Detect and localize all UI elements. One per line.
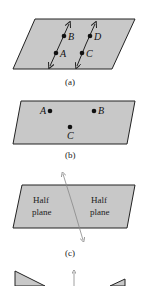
geometry-figure: B A D C (a) A B C (b) Half plane Half pl… [0, 0, 145, 286]
panel-b: A B C (b) [13, 101, 135, 160]
label-c: C [86, 48, 93, 59]
label-b: B [98, 105, 104, 116]
caption-b: (b) [65, 150, 76, 160]
plane-d-left [15, 271, 45, 286]
half-plane-right-line2: plane [90, 207, 110, 217]
panel-a: B A D C (a) [13, 19, 135, 87]
half-plane-left-line1: Half [33, 195, 49, 205]
half-plane-right-line1: Half [91, 195, 107, 205]
point-a [54, 51, 59, 56]
label-b: B [68, 31, 74, 42]
point-a [48, 109, 53, 114]
point-c [80, 51, 85, 56]
point-b [62, 34, 67, 39]
half-plane-left-line2: plane [32, 207, 52, 217]
caption-a: (a) [65, 77, 75, 87]
plane-b [13, 101, 135, 144]
point-b [92, 109, 97, 114]
label-a: A [39, 105, 47, 116]
point-d [88, 34, 93, 39]
label-d: D [93, 31, 102, 42]
caption-c: (c) [65, 248, 75, 258]
label-c: C [67, 130, 74, 141]
point-c [68, 125, 73, 130]
label-a: A [59, 48, 67, 59]
plane-d-right [110, 279, 125, 286]
panel-c: Half plane Half plane (c) [13, 174, 135, 258]
plane-a [13, 19, 135, 69]
panel-d-partial [15, 271, 125, 286]
